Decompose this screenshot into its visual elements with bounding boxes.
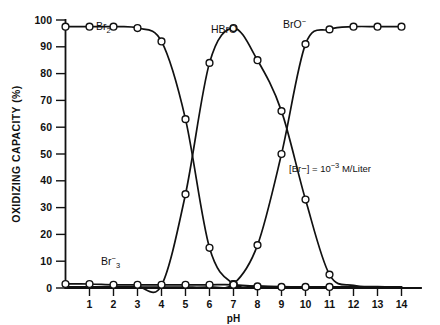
series-curve-bro (66, 27, 402, 288)
x-axis-title: pH (227, 313, 240, 324)
data-point (302, 41, 309, 48)
x-tick-label-7: 7 (231, 298, 237, 310)
series-curve-hbro (66, 28, 402, 292)
data-point (86, 23, 93, 30)
data-point (374, 23, 381, 30)
x-tick-label-1: 1 (87, 298, 93, 310)
data-point (206, 59, 213, 66)
data-point (302, 196, 309, 203)
x-tick-label-14: 14 (396, 298, 408, 310)
series-layer (62, 23, 405, 292)
data-point (158, 281, 165, 288)
x-tick-label-13: 13 (372, 298, 384, 310)
y-tick-label-20: 20 (40, 228, 52, 240)
data-point (206, 244, 213, 251)
data-point (206, 281, 213, 288)
y-axis: 0 10 20 30 40 50 60 70 80 90 100 OXIDIZI… (10, 14, 66, 294)
data-point (134, 25, 141, 32)
data-point (326, 271, 333, 278)
oxidizing-capacity-chart: 0 10 20 30 40 50 60 70 80 90 100 OXIDIZI… (0, 0, 440, 325)
data-point (110, 281, 117, 288)
series-label-hbro: HBrO (211, 23, 237, 35)
y-tick-label-70: 70 (40, 94, 52, 106)
concentration-annotation: [Br−] = 10−3 M/Liter (289, 161, 371, 174)
y-tick-label-30: 30 (40, 201, 52, 213)
data-point (278, 151, 285, 158)
x-tick-label-10: 10 (300, 298, 312, 310)
data-point (62, 281, 69, 288)
series-label-bro-minus: BrO− (283, 17, 307, 30)
y-tick-label-10: 10 (40, 255, 52, 267)
y-tick-label-50: 50 (40, 148, 52, 160)
x-tick-label-8: 8 (255, 298, 261, 310)
data-point (302, 284, 309, 291)
data-point (326, 26, 333, 33)
data-point (326, 284, 333, 291)
x-tick-label-9: 9 (279, 298, 285, 310)
data-point (254, 57, 261, 64)
data-point (350, 23, 357, 30)
data-point (182, 281, 189, 288)
data-point (398, 23, 405, 30)
data-point (62, 23, 69, 30)
y-tick-label-0: 0 (46, 282, 52, 294)
y-tick-label-40: 40 (40, 174, 52, 186)
series-label-br3-minus: Br−3 (101, 254, 120, 270)
data-point (254, 283, 261, 290)
series-curve-br2 (66, 27, 402, 288)
data-point (278, 108, 285, 115)
data-point (110, 23, 117, 30)
data-point (182, 191, 189, 198)
data-point (86, 281, 93, 288)
x-tick-label-4: 4 (159, 298, 165, 310)
x-axis: 1 2 3 4 5 6 7 8 9 10 11 12 13 14 pH (66, 288, 422, 324)
data-point (278, 284, 285, 291)
chart-figure: 0 10 20 30 40 50 60 70 80 90 100 OXIDIZI… (0, 0, 440, 325)
y-tick-label-80: 80 (40, 67, 52, 79)
y-tick-label-100: 100 (34, 14, 52, 26)
data-point (254, 242, 261, 249)
x-tick-label-3: 3 (135, 298, 141, 310)
y-tick-label-90: 90 (40, 40, 52, 52)
data-point (230, 281, 237, 288)
data-point (158, 38, 165, 45)
series-label-br2: Br2 (96, 20, 111, 35)
x-tick-label-2: 2 (111, 298, 117, 310)
data-point (182, 116, 189, 123)
x-tick-label-5: 5 (183, 298, 189, 310)
y-tick-label-60: 60 (40, 121, 52, 133)
x-tick-label-11: 11 (324, 298, 335, 310)
x-tick-label-12: 12 (348, 298, 360, 310)
y-axis-title: OXIDIZING CAPACITY (%) (10, 85, 22, 222)
data-point (134, 281, 141, 288)
x-tick-label-6: 6 (207, 298, 213, 310)
